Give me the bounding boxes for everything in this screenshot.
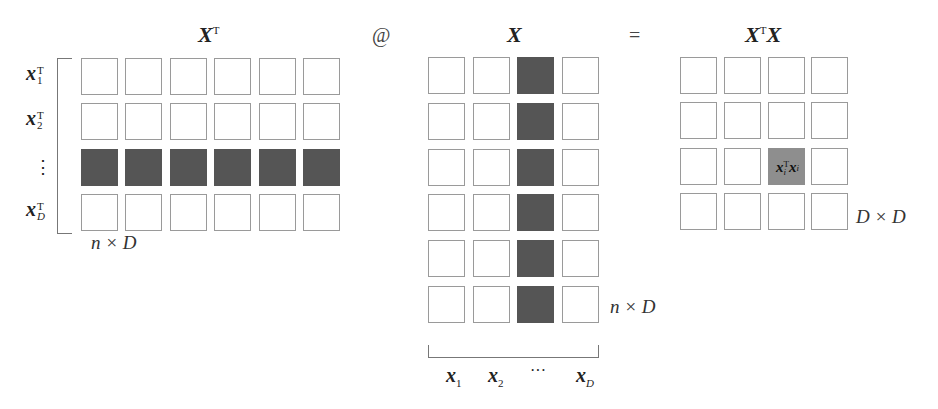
xtx-matrix-cell (768, 102, 805, 139)
xtx-matrix-cell (724, 57, 761, 94)
xtx-matrix-cell (811, 193, 848, 230)
xt-matrix-cell (170, 58, 207, 95)
xt-matrix-cell (303, 149, 340, 186)
xt-row-bracket (57, 58, 58, 234)
xt-row-label-d: xTD (26, 198, 45, 221)
x-matrix-cell (562, 194, 599, 231)
xt-matrix-cell (125, 149, 162, 186)
xt-row-bracket-top (57, 58, 72, 59)
x-col-bracket-right (598, 345, 599, 358)
xt-matrix-cell (303, 103, 340, 140)
x-matrix-cell (428, 149, 465, 186)
xt-matrix-cell (81, 103, 118, 140)
xt-matrix-cell (259, 149, 296, 186)
x-matrix-cell (473, 149, 510, 186)
xtx-cell-label: xTixi (769, 149, 806, 186)
xt-row-label-2: xT2 (26, 107, 44, 130)
xtx-dimension-label: D × D (856, 206, 906, 228)
x-matrix-cell (473, 194, 510, 231)
xt-row-label-1: xT1 (26, 62, 44, 85)
x-matrix-cell (517, 57, 554, 94)
x-matrix-cell (428, 194, 465, 231)
xtx-matrix-cell (811, 57, 848, 94)
x-matrix-cell (517, 286, 554, 323)
x-matrix-cell (562, 57, 599, 94)
xt-matrix-cell (259, 58, 296, 95)
xt-matrix-cell (214, 194, 251, 231)
matmul-operator: @ (372, 24, 390, 47)
xtx-matrix-cell (768, 193, 805, 230)
xt-dimension-label: n × D (91, 232, 137, 254)
xtx-highlighted-cell: xTixi (768, 148, 805, 185)
xt-row-label-ellipsis: ⋮ (34, 156, 52, 178)
xt-matrix-cell (81, 58, 118, 95)
xtx-matrix-cell (724, 193, 761, 230)
xtx-matrix-cell (811, 148, 848, 185)
x-matrix-cell (517, 240, 554, 277)
xtx-title: XTX (745, 22, 781, 48)
xt-matrix-cell (81, 149, 118, 186)
x-matrix-cell (473, 240, 510, 277)
x-matrix-cell (473, 57, 510, 94)
xt-matrix-cell (81, 194, 118, 231)
x-matrix-cell (517, 103, 554, 140)
xt-matrix-cell (303, 58, 340, 95)
x-matrix-cell (473, 286, 510, 323)
xt-matrix-cell (125, 58, 162, 95)
x-matrix-cell (517, 194, 554, 231)
x-matrix-cell (562, 286, 599, 323)
x-col-label-2: x2 (488, 364, 504, 389)
equals-operator: = (629, 24, 640, 47)
xt-matrix-cell (214, 58, 251, 95)
x-matrix-cell (562, 240, 599, 277)
xt-matrix-cell (170, 103, 207, 140)
xtx-matrix-cell (724, 102, 761, 139)
x-dimension-label: n × D (610, 296, 656, 318)
x-matrix-cell (428, 103, 465, 140)
xtx-matrix-cell (811, 102, 848, 139)
xtx-matrix-cell (680, 102, 717, 139)
xt-matrix-cell (125, 103, 162, 140)
x-col-label-d: xD (576, 364, 594, 389)
x-col-label-1: x1 (446, 364, 462, 389)
xt-title: XT (198, 22, 219, 48)
xt-row-bracket-bottom (57, 233, 72, 234)
xtx-matrix-cell (680, 148, 717, 185)
x-col-bracket (428, 357, 599, 358)
xtx-matrix-cell (680, 193, 717, 230)
xt-matrix-cell (170, 149, 207, 186)
x-matrix-cell (473, 103, 510, 140)
xt-matrix-cell (259, 103, 296, 140)
xtx-matrix-cell (768, 57, 805, 94)
xtx-matrix-cell (680, 57, 717, 94)
x-col-label-ellipsis: ··· (530, 362, 546, 380)
x-matrix-cell (517, 149, 554, 186)
xt-matrix-cell (259, 194, 296, 231)
xtx-matrix-cell (724, 148, 761, 185)
x-title: X (507, 22, 522, 48)
x-matrix-cell (562, 103, 599, 140)
x-matrix-cell (428, 286, 465, 323)
x-matrix-cell (428, 57, 465, 94)
x-col-bracket-left (428, 345, 429, 358)
xt-matrix-cell (214, 149, 251, 186)
xt-matrix-cell (170, 194, 207, 231)
xt-matrix-cell (214, 103, 251, 140)
xt-matrix-cell (303, 194, 340, 231)
xt-matrix-cell (125, 194, 162, 231)
x-matrix-cell (562, 149, 599, 186)
x-matrix-cell (428, 240, 465, 277)
